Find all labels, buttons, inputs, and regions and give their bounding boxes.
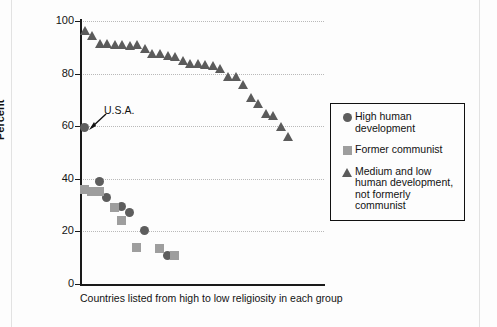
data-point-square [95,187,104,196]
usa-annotation-label: U.S.A. [104,104,134,116]
y-axis-tick-label: 60 [46,120,74,131]
gridline [81,21,324,22]
y-axis-line [80,19,82,286]
data-point-square [170,251,179,260]
y-axis-title: Percent [0,100,6,140]
legend-label-line1: Medium and low [355,165,431,177]
data-point-triangle [283,132,293,141]
data-point-square [132,243,141,252]
y-axis-tick-label: 0 [46,278,74,289]
legend-item-former-communist[interactable]: Former communist [339,144,456,156]
legend-item-high-human-development[interactable]: High human development [339,111,456,134]
gridline [81,126,324,127]
data-point-square [110,203,119,212]
page-edge-rule-left [11,0,12,327]
y-axis-tick-label: 100 [46,15,74,26]
data-point-circle [140,226,149,235]
legend-label-line2: development [355,122,415,134]
page-edge-rule-right [479,0,480,327]
gridline [81,179,324,180]
data-point-triangle [253,99,263,108]
gridline [81,74,324,75]
legend-label-line2: human development, [355,176,453,188]
usa-annotation-arrow [86,112,108,132]
y-axis-tick-label: 40 [46,173,74,184]
square-marker-icon [339,144,355,155]
data-point-triangle [238,80,248,89]
gridline [81,231,324,232]
circle-marker-icon [339,111,355,122]
legend-label-line4: communist [355,199,406,211]
x-axis-line [80,284,325,286]
legend-item-label: Former communist [355,144,443,156]
y-axis-tick-label: 80 [46,68,74,79]
legend-label-line1: High human [355,110,412,122]
triangle-marker-icon [339,166,355,177]
legend: High human development Former communist … [330,103,465,221]
data-point-triangle [268,111,278,120]
data-point-circle [95,177,104,186]
legend-label-line1: Former communist [355,143,443,155]
legend-item-medium-low-human-development[interactable]: Medium and low human development, not fo… [339,166,456,212]
data-point-square [117,216,126,225]
legend-item-label: High human development [355,111,415,134]
legend-label-line3: not formerly [355,188,410,200]
y-axis-tick-label: 20 [46,225,74,236]
data-point-triangle [276,122,286,131]
x-axis-caption: Countries listed from high to low religi… [80,292,330,304]
legend-item-label: Medium and low human development, not fo… [355,166,453,212]
chart-figure: 020406080100 Percent Countries listed fr… [0,0,497,327]
data-point-square [155,244,164,253]
